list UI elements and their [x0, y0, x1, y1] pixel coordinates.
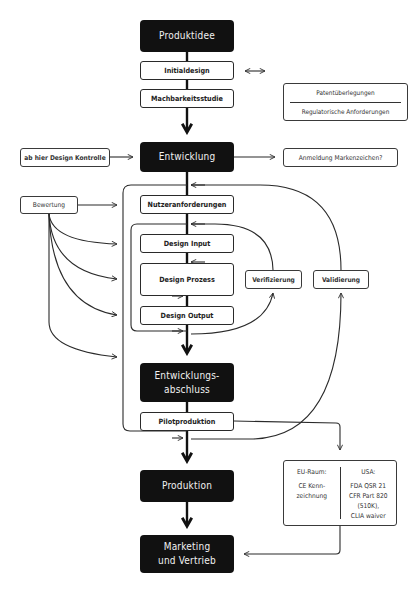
- produktidee-box: Produktidee: [140, 20, 234, 52]
- design-output-label: Design Output: [161, 311, 214, 320]
- entwicklungsabschluss-label-line1: Entwicklungs-: [154, 369, 219, 383]
- usa-column: USA: FDA QSR 21 CFR Part 820 (510K), CLI…: [341, 461, 397, 525]
- usa-line-2: CFR Part 820: [349, 491, 387, 501]
- initialdesign-box: Initialdesign: [140, 61, 234, 80]
- eu-column: EU-Raum: CE Kenn- zeichnung: [284, 461, 340, 525]
- marketing-box: Marketing und Vertrieb: [140, 535, 234, 573]
- entwicklungsabschluss-label-line2: abschluss: [164, 383, 210, 397]
- pilotproduktion-box: Pilotproduktion: [140, 412, 234, 431]
- regulatory-markets-box: EU-Raum: CE Kenn- zeichnung USA: FDA QSR…: [283, 460, 397, 526]
- bewertung-box: Bewertung: [20, 196, 78, 214]
- regulatory-label: Regulatorische Anforderungen: [302, 106, 390, 118]
- entwicklungsabschluss-box: Entwicklungs- abschluss: [140, 363, 234, 402]
- produktion-label: Produktion: [162, 479, 212, 493]
- eu-line-1: CE Kenn-: [298, 481, 325, 491]
- markenzeichen-box: Anmeldung Markenzeichen?: [283, 148, 398, 167]
- markenzeichen-label: Anmeldung Markenzeichen?: [299, 154, 383, 162]
- divider: [290, 102, 401, 103]
- design-output-box: Design Output: [140, 306, 234, 325]
- eu-heading: EU-Raum:: [297, 467, 326, 477]
- validierung-box: Validierung: [313, 270, 369, 289]
- patent-regulatory-box: Patentüberlegungen Regulatorische Anford…: [283, 83, 408, 121]
- design-input-label: Design Input: [164, 239, 211, 248]
- usa-line-4: CLIA waiver: [351, 511, 386, 521]
- validierung-label: Validierung: [322, 276, 360, 284]
- marketing-label-line1: Marketing: [164, 540, 211, 554]
- nutzeranforderungen-box: Nutzeranforderungen: [140, 195, 234, 214]
- eu-line-2: zeichnung: [297, 491, 327, 501]
- bewertung-label: Bewertung: [33, 201, 65, 209]
- pilotproduktion-label: Pilotproduktion: [159, 417, 216, 426]
- design-prozess-box: Design Prozess: [140, 263, 234, 296]
- design-kontrolle-box: ab hier Design Kontrolle: [20, 148, 110, 167]
- entwicklung-label: Entwicklung: [159, 150, 216, 164]
- usa-line-1: FDA QSR 21: [350, 481, 386, 491]
- usa-line-3: (510K),: [357, 501, 379, 511]
- verifizierung-box: Verifizierung: [245, 270, 302, 289]
- marketing-label-line2: und Vertrieb: [158, 554, 216, 568]
- design-prozess-label: Design Prozess: [159, 275, 215, 284]
- design-kontrolle-label: ab hier Design Kontrolle: [24, 154, 105, 162]
- usa-heading: USA:: [361, 467, 375, 477]
- design-input-box: Design Input: [140, 234, 234, 253]
- machbarkeitsstudie-box: Machbarkeitsstudie: [140, 89, 234, 108]
- nutzeranforderungen-label: Nutzeranforderungen: [148, 200, 227, 209]
- verifizierung-label: Verifizierung: [252, 276, 295, 284]
- flowchart-canvas: Produktidee Initialdesign Machbarkeitsst…: [0, 0, 419, 589]
- patent-label: Patentüberlegungen: [316, 87, 375, 99]
- produktidee-label: Produktidee: [159, 29, 215, 43]
- machbarkeitsstudie-label: Machbarkeitsstudie: [151, 94, 223, 103]
- initialdesign-label: Initialdesign: [164, 66, 209, 75]
- produktion-box: Produktion: [140, 470, 234, 502]
- entwicklung-box: Entwicklung: [140, 142, 234, 172]
